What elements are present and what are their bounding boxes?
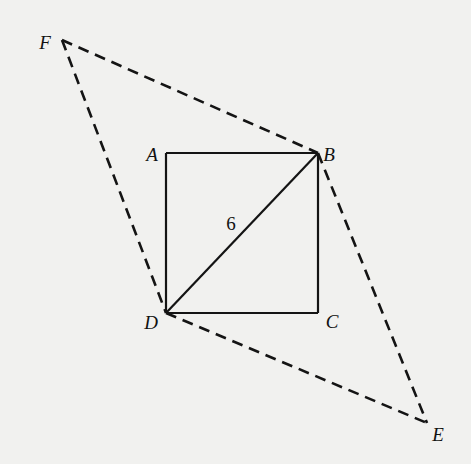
label-point-c: C [326,312,339,331]
label-point-d: D [144,313,158,332]
diagonal-length-label: 6 [226,214,236,233]
geometry-diagram: A B C D E F 6 [0,0,471,464]
label-point-f: F [39,33,51,52]
segment-be [318,153,427,423]
segment-de [166,313,427,423]
segment-fb [62,40,318,153]
label-point-b: B [323,145,335,164]
label-point-a: A [146,145,158,164]
segments-group [62,40,427,423]
segment-db [166,153,318,313]
label-point-e: E [432,425,444,444]
segment-fd [62,40,166,313]
